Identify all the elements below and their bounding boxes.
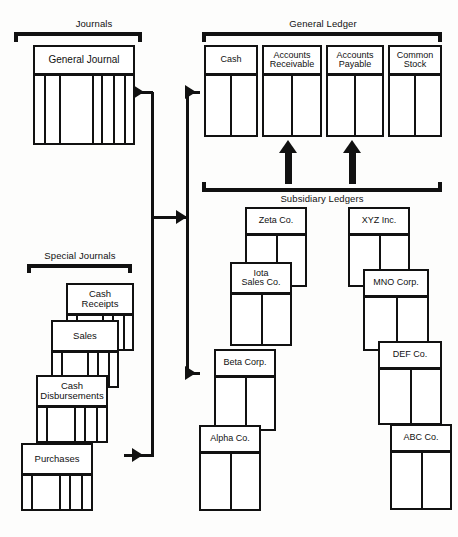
column-rule	[31, 476, 33, 509]
column-rule	[96, 408, 98, 441]
column-rule	[59, 476, 61, 509]
t-account-divider	[291, 76, 293, 135]
column-rule	[108, 353, 110, 386]
journal-title-line1: Purchases	[35, 454, 80, 464]
group-label-special-journals: Special Journals	[25, 250, 135, 261]
t-account-divider	[245, 378, 247, 429]
subsidiary-title-beta-corp: Beta Corp.	[216, 351, 274, 377]
t-account-divider	[230, 454, 232, 509]
subsidiary-title-line1: ABC Co.	[403, 433, 438, 442]
journal-ruled-body	[23, 475, 91, 509]
subsidiary-t-body	[392, 452, 450, 508]
column-rule	[69, 476, 71, 509]
subsidiary-title-line1: DEF Co.	[393, 350, 428, 359]
ledger-card-cash: Cash	[204, 45, 258, 137]
journal-title-general-journal: General Journal	[35, 47, 133, 75]
journal-title-purchases: Purchases	[23, 445, 91, 475]
subsidiary-card-iota-sales-co: Iota Sales Co.	[230, 262, 292, 346]
column-rule	[59, 76, 61, 143]
journal-title-line2: Receipts	[82, 299, 119, 309]
subsidiary-title-line1: Beta Corp.	[223, 358, 266, 367]
journal-ruled-body	[38, 407, 106, 441]
subsidiary-card-abc-co: ABC Co.	[390, 424, 452, 510]
ledger-title-cash: Cash	[206, 47, 256, 75]
ledger-title-accounts-payable: Accounts Payable	[328, 47, 382, 75]
t-account-divider	[421, 453, 423, 508]
subsidiary-title-line1: Zeta Co.	[259, 216, 294, 225]
ledger-t-body	[390, 75, 440, 135]
ledger-card-accounts-receivable: Accounts Receivable	[262, 45, 322, 137]
column-rule	[124, 76, 126, 143]
connector-trunk-right	[186, 92, 189, 374]
journal-ruled-body	[35, 75, 133, 143]
column-rule	[84, 408, 86, 441]
subsidiary-card-alpha-co: Alpha Co.	[199, 425, 261, 511]
bracket-general-ledger	[202, 32, 442, 42]
subsidiary-card-def-co: DEF Co.	[378, 341, 442, 425]
bracket-special-journals	[27, 264, 132, 273]
group-label-subsidiary-ledgers: Subsidiary Ledgers	[252, 193, 392, 204]
column-rule	[101, 76, 103, 143]
column-rule	[81, 476, 83, 509]
journal-card-purchases: Purchases	[21, 443, 93, 511]
journal-card-cash-disbursements: Cash Disbursements	[36, 375, 108, 443]
group-label-general-ledger: General Ledger	[258, 18, 388, 29]
ledger-t-body	[328, 75, 382, 135]
subsidiary-title-line1: MNO Corp.	[373, 278, 419, 287]
journal-title-line1: Sales	[73, 331, 97, 341]
ledger-title-accounts-receivable: Accounts Receivable	[264, 47, 320, 75]
subsidiary-title-xyz-inc: XYZ Inc.	[350, 209, 408, 235]
t-account-divider	[261, 295, 263, 344]
subsidiary-t-body	[380, 369, 440, 423]
arrow-to-subsidiary-ledgers	[185, 366, 196, 380]
subsidiary-t-body	[201, 453, 259, 509]
column-rule	[44, 76, 46, 143]
subsidiary-title-alpha-co: Alpha Co.	[201, 427, 259, 453]
t-account-divider	[230, 76, 232, 135]
connector-trunk-left	[151, 92, 154, 457]
subsidiary-title-line1: XYZ Inc.	[362, 216, 397, 225]
journal-title-sales: Sales	[53, 322, 117, 352]
t-account-divider	[414, 76, 416, 135]
ledger-card-accounts-payable: Accounts Payable	[326, 45, 384, 137]
ledger-t-body	[206, 75, 256, 135]
journal-title-cash-receipts: Cash Receipts	[68, 285, 132, 315]
subsidiary-card-mno-corp: MNO Corp.	[363, 269, 429, 351]
subsidiary-title-mno-corp: MNO Corp.	[365, 271, 427, 297]
subsidiary-title-abc-co: ABC Co.	[392, 426, 450, 452]
ledger-card-common-stock: Common Stock	[388, 45, 442, 137]
arrow-shaft-to-accounts-payable	[349, 152, 356, 184]
column-rule	[46, 408, 48, 441]
column-rule	[74, 408, 76, 441]
journal-title-line2: Disbursements	[40, 391, 103, 401]
subsidiary-title-zeta-co: Zeta Co.	[247, 209, 305, 235]
ledger-title-line1: Cash	[220, 55, 241, 64]
bracket-subsidiary-ledgers	[202, 182, 442, 192]
column-rule	[113, 76, 115, 143]
subsidiary-t-body	[216, 377, 274, 429]
journal-card-general-journal: General Journal	[33, 45, 135, 145]
column-rule	[123, 316, 125, 349]
t-account-divider	[410, 370, 412, 423]
arrow-head-to-accounts-payable	[343, 140, 361, 153]
arrow-shaft-to-accounts-receivable	[285, 152, 292, 184]
arrow-head-to-accounts-receivable	[279, 140, 297, 153]
arrow-special-journals-to-trunk	[132, 448, 143, 462]
column-rule	[92, 76, 94, 143]
ledger-title-common-stock: Common Stock	[390, 47, 440, 75]
subsidiary-title-line2: Sales Co.	[241, 278, 280, 287]
journal-title-cash-disbursements: Cash Disbursements	[38, 377, 106, 407]
subsidiary-title-def-co: DEF Co.	[380, 343, 440, 369]
subsidiary-t-body	[232, 294, 290, 344]
ledger-title-line2: Stock	[404, 60, 427, 69]
group-label-journals: Journals	[46, 18, 142, 29]
t-account-divider	[354, 76, 356, 135]
ledger-title-line2: Payable	[339, 60, 372, 69]
ledger-title-line2: Receivable	[270, 60, 315, 69]
subsidiary-card-beta-corp: Beta Corp.	[214, 349, 276, 431]
subsidiary-title-line1: Alpha Co.	[210, 434, 250, 443]
arrow-to-general-ledger	[185, 85, 196, 99]
subsidiary-title-iota-sales-co: Iota Sales Co.	[232, 264, 290, 294]
accounting-flow-diagram: Journals General Journal General Ledger …	[0, 0, 458, 537]
arrow-to-left-trunk-top	[133, 85, 144, 99]
